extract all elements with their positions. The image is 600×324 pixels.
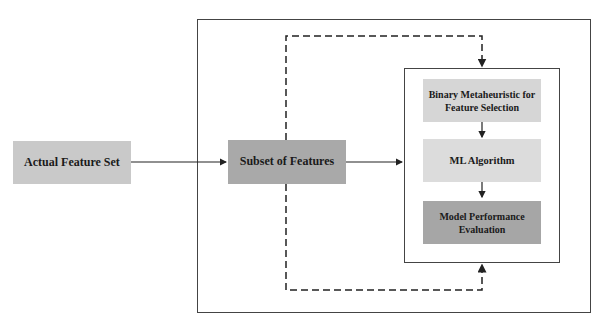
ml-algorithm-node: ML Algorithm: [423, 139, 541, 182]
subset-of-features-node: Subset of Features: [228, 140, 346, 184]
model-performance-evaluation-node: Model Performance Evaluation: [423, 201, 541, 244]
actual-feature-set-node: Actual Feature Set: [13, 141, 131, 184]
binary-metaheuristic-node: Binary Metaheuristic for Feature Selecti…: [423, 79, 541, 122]
